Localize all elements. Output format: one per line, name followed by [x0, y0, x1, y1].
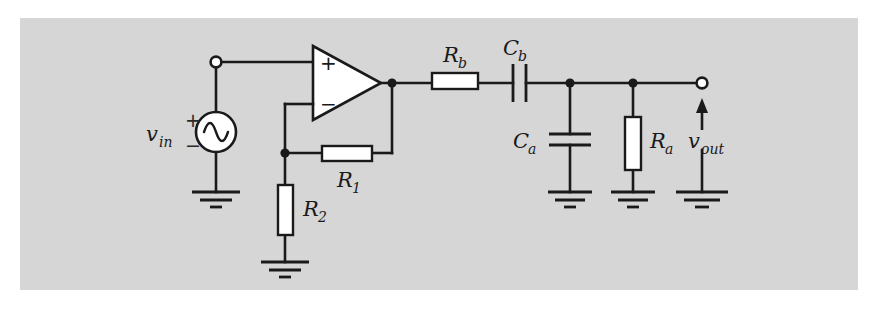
label-v-in-sub: in — [159, 134, 173, 150]
label-v-in-base: v — [146, 122, 158, 146]
v-in-source — [196, 112, 236, 152]
label-r2-sub: 2 — [317, 209, 327, 225]
source-plus-sign: + — [185, 109, 201, 131]
junction-dot-output — [387, 78, 396, 87]
r2-resistor — [278, 185, 293, 235]
label-r2-base: R — [302, 197, 319, 221]
label-rb-sub: b — [458, 55, 467, 71]
label-cb-sub: b — [518, 48, 527, 64]
junction-dot-ca-node — [565, 78, 574, 87]
label-r1-base: R — [336, 168, 353, 192]
input-terminal[interactable] — [211, 57, 222, 68]
ra-resistor — [625, 117, 641, 170]
label-ra-base: R — [649, 129, 666, 153]
rb-resistor — [432, 73, 478, 89]
label-cb-base: C — [503, 36, 519, 60]
junction-dot-inverting-node — [280, 148, 289, 157]
label-ca-sub: a — [528, 141, 536, 157]
circuit-figure: + − + − — [0, 0, 880, 310]
label-v-out-base: v — [688, 129, 700, 153]
label-r1-sub: 1 — [352, 180, 361, 196]
output-terminal[interactable] — [697, 78, 708, 89]
circuit-schematic-canvas: + − + − — [0, 0, 880, 310]
label-rb-base: R — [442, 43, 459, 67]
opamp-minus-sign: − — [320, 92, 337, 116]
junction-dot-ra-node — [628, 78, 637, 87]
r1-resistor — [322, 146, 372, 161]
label-ca-base: C — [513, 129, 529, 153]
schematic-panel — [20, 18, 858, 290]
source-minus-sign: − — [185, 134, 201, 156]
opamp-plus-sign: + — [320, 51, 337, 75]
label-v-out-sub: out — [701, 141, 724, 157]
label-ra-sub: a — [665, 141, 673, 157]
